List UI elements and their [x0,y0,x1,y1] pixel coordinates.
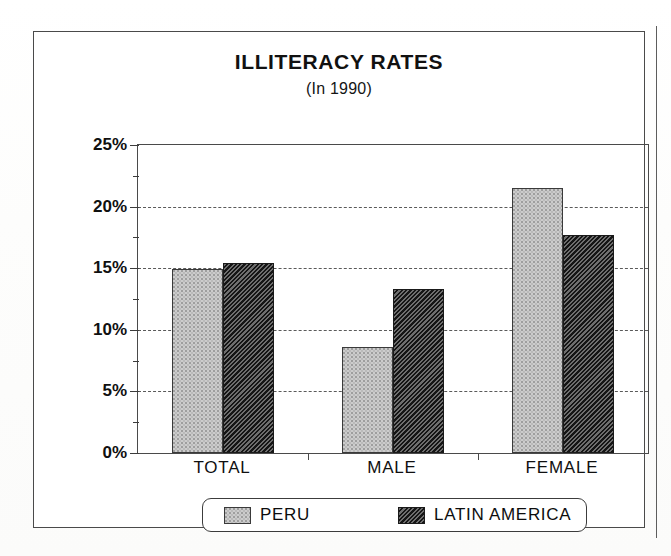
y-tick-minor [133,237,139,238]
legend-label-latin-america: LATIN AMERICA [434,505,571,525]
peru-swatch-icon [224,507,251,524]
x-axis-separator [478,453,479,460]
y-axis-label: 5% [102,381,127,401]
y-axis-label: 20% [93,197,127,217]
x-axis-category-label-total: TOTAL [193,458,250,478]
y-tick-major [130,453,139,454]
y-axis-label: 10% [93,320,127,340]
legend-entry-peru[interactable]: PERU [224,505,310,525]
y-tick-major [130,207,139,208]
gridline-20% [138,207,648,208]
latin-america-swatch-icon [398,507,425,524]
plot-area: 0%5%10%15%20%25% [137,144,649,454]
bar-female-latin-america [563,235,614,453]
legend-label-peru: PERU [260,505,310,525]
bar-male-latin-america [393,289,444,453]
chart-title: ILLITERACY RATES [34,50,644,74]
y-tick-major [130,145,139,146]
y-tick-minor [133,176,139,177]
bar-female-peru [512,188,563,453]
y-tick-major [130,330,139,331]
chart-subtitle: (In 1990) [34,80,644,98]
y-tick-minor [133,299,139,300]
bar-total-peru [172,269,223,453]
y-axis-label: 0% [102,443,127,463]
x-axis-separator [308,453,309,460]
x-axis-category-label-male: MALE [367,458,417,478]
legend-entry-latin-america[interactable]: LATIN AMERICA [398,505,571,525]
chart-legend: PERU LATIN AMERICA [202,498,587,532]
y-tick-minor [133,422,139,423]
y-axis-label: 25% [93,135,127,155]
figure-frame: ILLITERACY RATES (In 1990) 0%5%10%15%20%… [33,31,645,528]
page-edge-rule [656,26,657,538]
y-axis-label: 15% [93,258,127,278]
y-tick-minor [133,361,139,362]
x-axis-category-label-female: FEMALE [526,458,599,478]
y-tick-major [130,268,139,269]
y-tick-major [130,391,139,392]
bar-total-latin-america [223,263,274,453]
bar-male-peru [342,347,393,453]
